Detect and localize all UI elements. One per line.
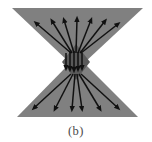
figure-container: (b) xyxy=(0,0,152,142)
hourglass-diagram xyxy=(0,0,152,120)
figure-caption: (b) xyxy=(0,120,152,142)
field-arrow xyxy=(76,19,77,53)
